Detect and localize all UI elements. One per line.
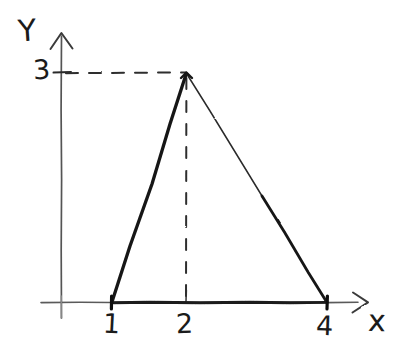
y-axis-label: Y — [17, 15, 37, 46]
sketch-drawing-surface — [0, 0, 415, 363]
y-axis-line — [61, 36, 62, 318]
triangle-rising-edge — [112, 74, 187, 303]
triangle-falling-edge-upper — [187, 74, 263, 197]
triangle-falling-edge-lower — [262, 196, 327, 303]
triangle-base-segment — [112, 302, 328, 303]
sketch-figure: Y x 3 1 2 4 — [0, 0, 415, 363]
guide-line-y3-horizontal — [66, 72, 186, 73]
x-tick-label-4: 4 — [316, 312, 334, 340]
x-tick-label-2: 2 — [176, 310, 194, 338]
y-tick-label-3: 3 — [32, 56, 51, 84]
x-axis-label: x — [367, 306, 386, 337]
x-tick-label-1: 1 — [102, 310, 121, 338]
